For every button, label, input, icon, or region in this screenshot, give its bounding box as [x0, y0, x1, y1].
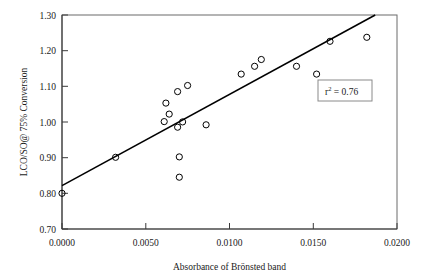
r-value: 0.76 [342, 87, 359, 97]
x-axis-tick-labels: 0.0000 0.0050 0.0100 0.0150 0.0200 [49, 238, 410, 248]
plot-frame [62, 15, 397, 229]
y-tick-label: 1.20 [39, 46, 56, 56]
data-point [314, 71, 320, 77]
data-point [161, 119, 167, 125]
data-point [176, 174, 182, 180]
data-point [252, 63, 258, 69]
x-tick-label: 0.0150 [300, 238, 326, 248]
data-point [238, 71, 244, 77]
data-point [203, 122, 209, 128]
r-squared-annotation: r2 = 0.76 [318, 80, 372, 101]
y-tick-label: 1.00 [39, 118, 56, 128]
x-tick-label: 0.0000 [49, 238, 75, 248]
data-point [175, 89, 181, 95]
data-point [185, 82, 191, 88]
y-tick-label: 1.30 [39, 11, 56, 21]
y-tick-label: 0.70 [39, 225, 56, 235]
data-point [163, 100, 169, 106]
data-point [258, 56, 264, 62]
scatter-chart-figure: 1.30 1.20 1.10 1.00 0.90 0.80 0.70 0.000… [0, 0, 435, 280]
data-point [293, 63, 299, 69]
x-axis-title: Absorbance of Brönsted band [173, 262, 286, 272]
data-point [166, 111, 172, 117]
x-axis-ticks [62, 223, 397, 229]
y-axis-ticks [62, 15, 68, 229]
y-tick-label: 0.80 [39, 189, 56, 199]
data-point [364, 34, 370, 40]
y-axis-tick-labels: 1.30 1.20 1.10 1.00 0.90 0.80 0.70 [39, 11, 56, 235]
y-tick-label: 1.10 [39, 82, 56, 92]
x-tick-label: 0.0050 [133, 238, 159, 248]
x-tick-label: 0.0200 [384, 238, 410, 248]
data-point [175, 124, 181, 130]
chart-canvas: 1.30 1.20 1.10 1.00 0.90 0.80 0.70 0.000… [0, 0, 435, 280]
y-tick-label: 0.90 [39, 153, 56, 163]
data-point [176, 154, 182, 160]
scatter-points [59, 34, 370, 196]
y-axis-title: LCO/SO@ 75% Conversion [19, 68, 29, 177]
x-tick-label: 0.0100 [216, 238, 242, 248]
r-equals: = [331, 87, 341, 97]
